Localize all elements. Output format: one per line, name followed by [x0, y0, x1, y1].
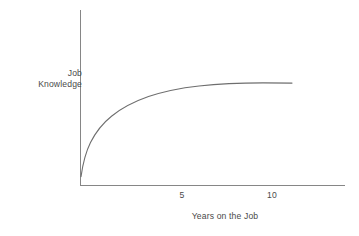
- job-knowledge-learning-curve-figure: Job Knowledge 5 10 Years on the Job: [0, 0, 359, 236]
- y-axis-label-line-2: Knowledge: [0, 79, 82, 90]
- x-axis-title: Years on the Job: [165, 211, 285, 222]
- y-axis-label: Job Knowledge: [0, 68, 82, 90]
- y-axis-label-line-1: Job: [0, 68, 82, 79]
- x-axis-tick-label-10: 10: [260, 190, 284, 201]
- x-axis-tick-label-5: 5: [170, 190, 194, 201]
- job-knowledge-curve: [81, 83, 292, 177]
